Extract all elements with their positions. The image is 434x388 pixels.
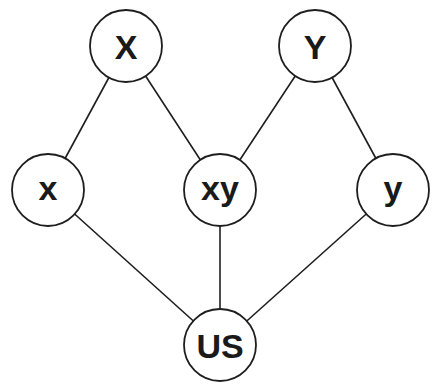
node-Y-label: Y: [304, 28, 327, 66]
node-x: x: [12, 154, 84, 226]
node-xy: xy: [184, 154, 256, 226]
node-US-label: US: [196, 327, 243, 365]
node-y: y: [357, 154, 429, 226]
node-Y: Y: [279, 10, 351, 82]
node-US: US: [184, 309, 256, 381]
node-X-label: X: [115, 28, 138, 66]
lattice-diagram: X Y x xy y US: [0, 0, 434, 388]
node-X: X: [90, 10, 162, 82]
node-y-label: y: [384, 169, 403, 207]
node-x-label: x: [39, 169, 58, 207]
nodes-group: X Y x xy y US: [12, 10, 429, 381]
node-xy-label: xy: [201, 169, 239, 207]
